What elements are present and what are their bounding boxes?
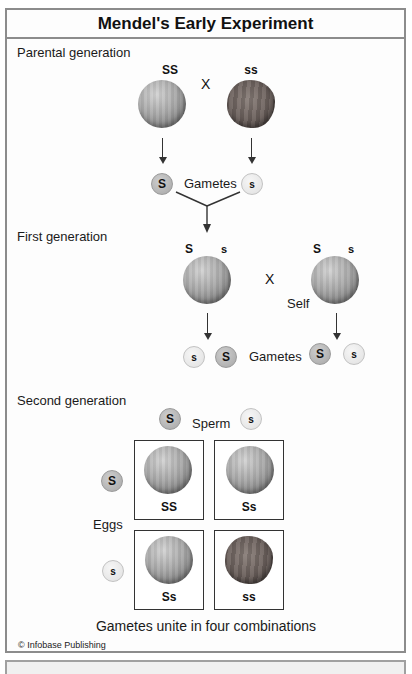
cell-genotype: ss [215,590,283,604]
arrow-down-icon [162,138,163,162]
first-left-allele-2: s [221,243,227,255]
round-pea-icon [144,446,192,494]
gamete-recessive: s [183,346,205,368]
round-pea-icon [183,256,231,304]
gamete-dominant: S [309,343,331,365]
arrow-down-icon [251,138,252,162]
cell-genotype: Ss [135,590,203,604]
diagram-title: Mendel's Early Experiment [7,10,404,39]
first-generation-label: First generation [17,229,107,244]
punnett-cell-Ss-bottom: Ss [134,530,204,610]
round-pea-icon [226,446,274,494]
bottom-panel-edge [5,660,406,674]
gamete-dominant: S [215,346,237,368]
round-pea-icon [145,536,193,584]
diagram-frame: Mendel's Early Experiment [5,8,406,653]
first-cross-symbol: X [265,271,274,287]
parental-cross-symbol: X [201,76,210,92]
arrow-down-icon [207,313,208,338]
eggs-label: Eggs [93,517,123,532]
punnett-cell-SS: SS [134,440,204,520]
merge-arrow-icon [170,190,250,240]
round-pea-icon [311,256,359,304]
gamete-recessive: s [343,343,365,365]
egg-gamete-recessive: s [102,560,124,582]
sperm-gamete-recessive: s [240,408,262,430]
parental-left-genotype: SS [155,63,185,77]
first-right-allele-1: S [313,242,321,256]
punnett-cell-Ss-top: Ss [214,440,284,520]
gametes-label: Gametes [184,176,237,191]
punnett-caption: Gametes unite in four combinations [0,618,412,634]
first-left-allele-1: S [185,242,193,256]
copyright-credit: © Infobase Publishing [18,640,106,650]
gametes-label: Gametes [249,349,302,364]
second-generation-label: Second generation [17,393,126,408]
sperm-label: Sperm [192,416,230,431]
cell-genotype: Ss [215,500,283,514]
wrinkled-pea-icon [225,536,273,584]
punnett-cell-ss: ss [214,530,284,610]
parental-right-genotype: ss [236,63,266,77]
sperm-gamete-dominant: S [159,408,181,430]
wrinkled-pea-icon [227,80,275,128]
first-right-allele-2: s [348,243,354,255]
round-pea-icon [138,80,186,128]
parental-generation-label: Parental generation [17,45,130,60]
self-label: Self [287,296,309,311]
arrow-down-icon [336,313,337,338]
cell-genotype: SS [135,500,203,514]
egg-gamete-dominant: S [101,470,123,492]
